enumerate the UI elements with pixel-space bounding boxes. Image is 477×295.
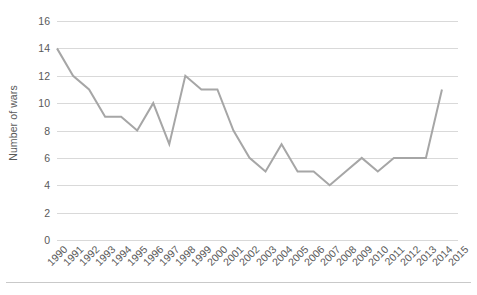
y-axis-title: Number of wars xyxy=(2,0,24,245)
y-tick-label: 4 xyxy=(44,179,50,191)
series-line xyxy=(57,21,458,240)
y-tick-label: 16 xyxy=(38,15,50,27)
y-tick-label: 8 xyxy=(44,125,50,137)
y-tick-label: 6 xyxy=(44,152,50,164)
line-chart: Number of wars 1614121086420 19901991199… xyxy=(0,0,477,295)
y-axis-tick-labels: 1614121086420 xyxy=(24,0,50,245)
series-polyline xyxy=(57,48,442,185)
y-tick-label: 2 xyxy=(44,207,50,219)
y-tick-label: 10 xyxy=(38,97,50,109)
y-tick-label: 12 xyxy=(38,70,50,82)
y-tick-label: 14 xyxy=(38,42,50,54)
bottom-divider xyxy=(6,282,471,283)
y-tick-label: 0 xyxy=(44,234,50,246)
y-axis-title-label: Number of wars xyxy=(7,85,19,161)
plot-area xyxy=(57,21,458,240)
gridline xyxy=(57,240,458,241)
